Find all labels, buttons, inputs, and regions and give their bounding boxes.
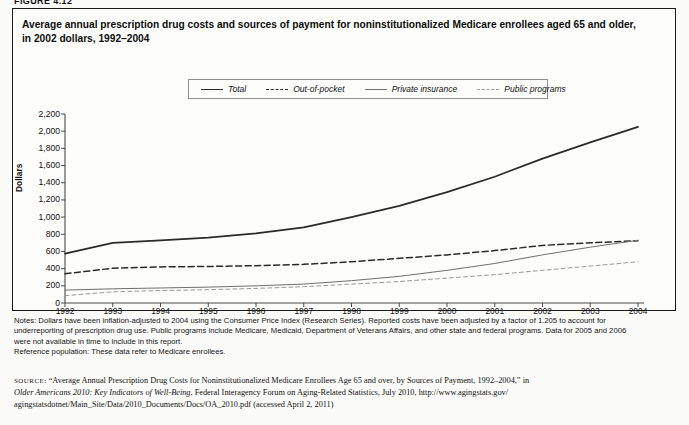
figure-label: FIGURE 4.12 (14, 0, 72, 6)
source-publication-title: Older Americans 2010: Key Indicators of … (14, 388, 191, 397)
legend-item-total[interactable]: Total (201, 84, 246, 94)
legend-label-private-insurance: Private insurance (392, 84, 458, 94)
source-label: source: (14, 377, 47, 384)
source-line-3: agingstatsdotnet/Main_Site/Data/2010_Doc… (14, 399, 676, 411)
source-line-2-text: , Federal Interagency Forum on Aging-Rel… (191, 388, 508, 397)
legend-item-private-insurance[interactable]: Private insurance (365, 84, 458, 94)
source-line-1: source: “Average Annual Prescription Dru… (14, 375, 676, 387)
legend-swatch-public-programs-icon (477, 85, 499, 94)
legend-swatch-total-icon (201, 85, 223, 94)
note-line: Notes: Dollars have been inflation-adjus… (14, 316, 674, 326)
source-line-2: Older Americans 2010: Key Indicators of … (14, 387, 676, 399)
figure-container (12, 8, 676, 311)
legend-label-public-programs: Public programs (504, 84, 565, 94)
figure-notes: Notes: Dollars have been inflation-adjus… (14, 316, 674, 358)
legend-item-out-of-pocket[interactable]: Out-of-pocket (266, 84, 345, 94)
note-line: Reference population: These data refer t… (14, 347, 674, 357)
figure-source: source: “Average Annual Prescription Dru… (14, 375, 676, 412)
legend-item-public-programs[interactable]: Public programs (477, 84, 565, 94)
title-line-2: in 2002 dollars, 1992–2004 (22, 32, 658, 46)
note-line: were not available in time to include in… (14, 337, 674, 347)
legend-label-total: Total (228, 84, 246, 94)
legend-swatch-private-insurance-icon (365, 85, 387, 94)
source-line-1-text: “Average Annual Prescription Drug Costs … (47, 376, 529, 385)
legend-swatch-out-of-pocket-icon (266, 85, 288, 94)
chart-legend: Total Out-of-pocket Private insurance Pu… (188, 79, 548, 99)
title-line-1: Average annual prescription drug costs a… (22, 18, 658, 32)
legend-label-out-of-pocket: Out-of-pocket (293, 84, 345, 94)
page-title: Average annual prescription drug costs a… (22, 18, 658, 45)
note-line: underreporting of prescription drug use.… (14, 326, 674, 336)
